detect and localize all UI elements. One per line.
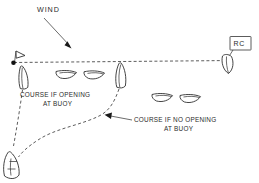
pin-end-buoy [11, 51, 25, 65]
boat-fleet-3 [152, 93, 173, 101]
boat-approach-lower-left [4, 152, 20, 179]
course-no-opening-arrow [105, 113, 133, 121]
boat-fleet-2 [84, 71, 105, 79]
boat-at-pin [19, 66, 28, 89]
wind-label: WIND [37, 5, 60, 14]
course-if-opening-label-line1: COURSE IF OPENING [20, 91, 90, 98]
course-if-no-opening-label-line1: COURSE IF NO OPENING [134, 116, 216, 123]
sailing-start-diagram: WIND RC [0, 0, 259, 183]
race-committee-boat: RC [222, 37, 251, 74]
diagram-canvas: WIND RC [0, 0, 259, 183]
wind-arrow [44, 18, 72, 49]
course-if-opening-label-line2: AT BUOY [43, 100, 73, 107]
rc-label: RC [234, 40, 245, 47]
boat-fleet-4 [180, 94, 201, 102]
boat-at-line-mid [116, 63, 126, 88]
course-if-no-opening-label-line2: AT BUOY [164, 125, 194, 132]
start-line [14, 61, 232, 63]
boat-fleet-1 [56, 70, 77, 78]
course-if-opening-path [14, 90, 23, 146]
